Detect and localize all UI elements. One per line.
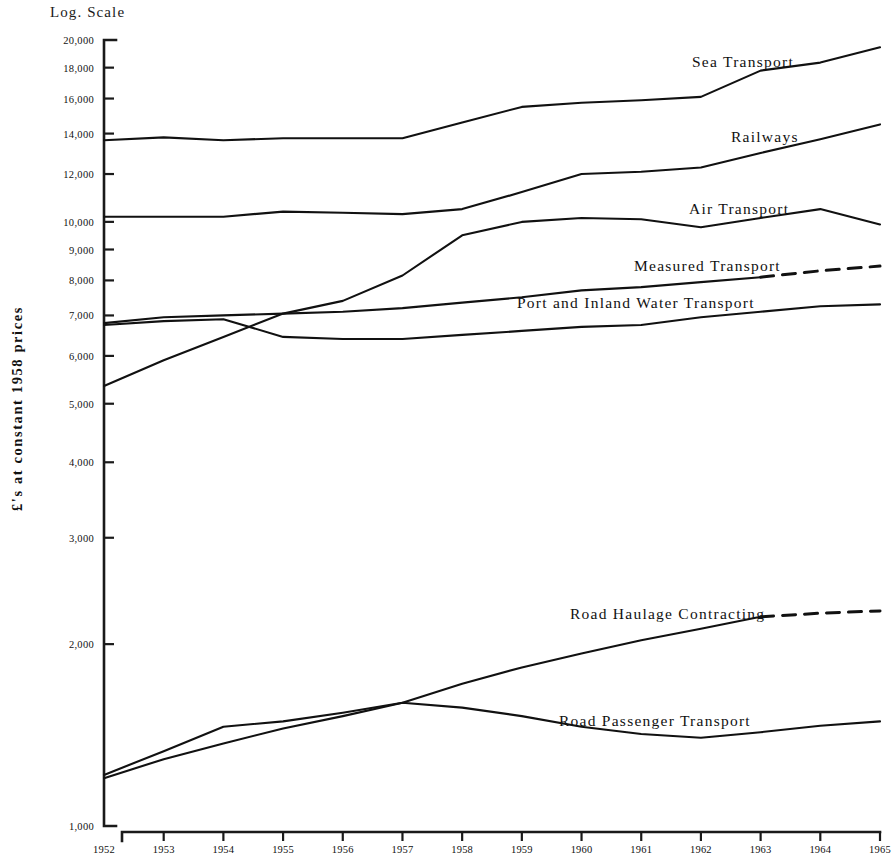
x-axis-tick-label: 1965 xyxy=(854,844,895,854)
y-axis-tick-label: 3,000 xyxy=(32,532,94,543)
series-line-road-passenger-transport xyxy=(104,703,880,775)
x-axis-tick-label: 1960 xyxy=(556,844,608,854)
y-axis-tick-label: 14,000 xyxy=(32,128,94,139)
y-axis-tick-label: 10,000 xyxy=(32,216,94,227)
x-axis-tick-label: 1954 xyxy=(197,844,249,854)
y-axis-tick-label: 7,000 xyxy=(32,310,94,321)
y-axis-tick-label: 5,000 xyxy=(32,398,94,409)
series-line-road-haulage-contracting xyxy=(104,617,761,778)
x-axis-tick-label: 1958 xyxy=(436,844,488,854)
x-axis-tick-label: 1953 xyxy=(138,844,190,854)
x-axis-tick-label: 1957 xyxy=(376,844,428,854)
x-axis-tick-label: 1964 xyxy=(794,844,846,854)
y-axis-tick-label: 18,000 xyxy=(32,62,94,73)
series-line-port-and-inland-water-transport xyxy=(104,304,880,339)
y-axis-tick-label: 6,000 xyxy=(32,350,94,361)
x-axis-tick-label: 1952 xyxy=(78,844,130,854)
y-axis-tick-label: 4,000 xyxy=(32,457,94,468)
y-axis-tick-label: 9,000 xyxy=(32,244,94,255)
series-label-port-and-inland-water-transport: Port and Inland Water Transport xyxy=(517,294,755,312)
series-label-railways: Railways xyxy=(731,128,799,146)
series-label-road-passenger-transport: Road Passenger Transport xyxy=(559,712,751,730)
y-axis-tick-label: 16,000 xyxy=(32,93,94,104)
series-label-measured-transport: Measured Transport xyxy=(634,257,781,275)
axes-group xyxy=(104,40,880,841)
x-axis-line xyxy=(122,832,880,841)
series-label-air-transport: Air Transport xyxy=(689,200,789,218)
y-axis-tick-label: 20,000 xyxy=(32,35,94,46)
series-line-air-transport xyxy=(104,209,880,386)
series-group xyxy=(104,47,880,778)
y-axis-tick-label: 8,000 xyxy=(32,275,94,286)
series-line-road-haulage-contracting-projected xyxy=(761,611,880,617)
y-axis-tick-label: 12,000 xyxy=(32,169,94,180)
series-label-sea-transport: Sea Transport xyxy=(692,53,794,71)
x-axis-tick-label: 1962 xyxy=(675,844,727,854)
x-axis-tick-label: 1963 xyxy=(735,844,787,854)
x-axis-tick-label: 1955 xyxy=(257,844,309,854)
y-axis-tick-label: 2,000 xyxy=(32,639,94,650)
x-axis-tick-label: 1956 xyxy=(317,844,369,854)
x-axis-tick-label: 1961 xyxy=(615,844,667,854)
y-axis-line xyxy=(104,40,116,826)
series-label-road-haulage-contracting: Road Haulage Contracting xyxy=(570,605,765,623)
y-axis-tick-label: 1,000 xyxy=(32,821,94,832)
x-axis-tick-label: 1959 xyxy=(496,844,548,854)
